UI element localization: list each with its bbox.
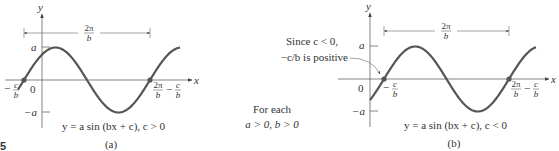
left-crossing-label: − c b — [4, 80, 19, 100]
note-line2: a > 0, b > 0 — [245, 118, 299, 130]
figure-marker: 5 — [0, 140, 6, 151]
equation-a: y = a sin (bx + c), c > 0 — [62, 120, 165, 133]
origin-label: 0 — [30, 83, 36, 95]
svg-text:b: b — [534, 89, 539, 99]
left-crossing-label: − c b — [383, 79, 398, 99]
y-axis-label: y — [365, 0, 371, 12]
svg-text:−: − — [4, 82, 10, 94]
svg-text:b: b — [156, 90, 161, 100]
x-axis-label: x — [550, 73, 556, 85]
svg-text:b: b — [14, 90, 19, 100]
figure-canvas: x y a −a 0 2π b − c b 2π b − — [0, 0, 559, 151]
origin-label: 0 — [358, 82, 364, 94]
panel-b: x y a −a 0 2π b Since c < 0, −c/b is pos… — [281, 0, 556, 150]
x-axis-label: x — [193, 74, 199, 86]
period-label-num: 2π — [84, 23, 94, 33]
svg-text:−: − — [383, 81, 389, 93]
svg-text:−: − — [166, 83, 172, 95]
period-label-den: b — [444, 31, 449, 41]
svg-text:−: − — [524, 82, 530, 94]
annotation-arrow — [350, 58, 380, 74]
svg-text:c: c — [393, 79, 397, 89]
note-line1: For each — [253, 103, 292, 115]
svg-text:2π: 2π — [511, 79, 521, 89]
caption-b: (b) — [448, 137, 461, 150]
svg-text:c: c — [534, 79, 538, 89]
caption-a: (a) — [105, 138, 118, 151]
y-max-label: a — [31, 41, 37, 53]
equation-b: y = a sin (bx + c), c < 0 — [404, 119, 507, 132]
annotation-line2: −c/b is positive — [281, 51, 348, 63]
svg-text:b: b — [514, 89, 519, 99]
y-min-label: −a — [352, 105, 365, 117]
crossing-point-left — [21, 77, 26, 82]
right-crossing-label: 2π b − c b — [511, 79, 539, 99]
crossing-point-right — [147, 77, 152, 82]
svg-text:c: c — [176, 80, 180, 90]
svg-text:b: b — [393, 89, 398, 99]
svg-text:c: c — [14, 80, 18, 90]
y-axis-label: y — [37, 1, 43, 13]
annotation-line1: Since c < 0, — [286, 35, 338, 47]
period-label-num: 2π — [441, 21, 451, 31]
period-label-den: b — [87, 33, 92, 43]
svg-text:b: b — [176, 90, 181, 100]
svg-text:2π: 2π — [153, 80, 163, 90]
right-crossing-label: 2π b − c b — [153, 80, 181, 100]
y-max-label: a — [359, 39, 365, 51]
y-min-label: −a — [24, 106, 37, 118]
panel-a: x y a −a 0 2π b − c b 2π b − — [4, 1, 199, 151]
